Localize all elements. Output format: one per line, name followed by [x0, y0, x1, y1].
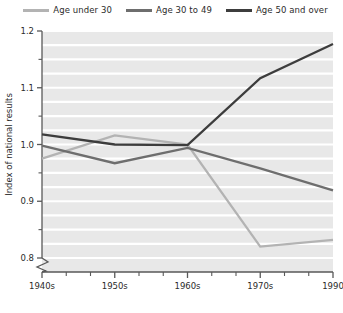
chart-legend: Age under 30 Age 30 to 49 Age 50 and ove…: [0, 0, 343, 20]
x-axis: [42, 272, 333, 278]
y-tick-label: 1.1: [20, 83, 34, 93]
legend-item-age-30-to-49: Age 30 to 49: [126, 5, 212, 15]
legend-label: Age under 30: [53, 5, 112, 15]
chart-svg: 1.21.11.00.90.8 1940s1950s1960s1970s1990…: [0, 20, 343, 313]
x-tick-label: 1950s: [102, 281, 129, 291]
legend-label: Age 50 and over: [256, 5, 328, 15]
chart-container: Age under 30 Age 30 to 49 Age 50 and ove…: [0, 0, 343, 313]
plot-background: [42, 31, 333, 272]
y-axis-title: Index of national results: [4, 93, 14, 196]
y-tick-label: 0.9: [20, 196, 34, 206]
legend-line-swatch-icon: [23, 9, 49, 12]
legend-item-age-50-and-over: Age 50 and over: [226, 5, 328, 15]
x-tick-label: 1990: [322, 281, 343, 291]
x-tick-label: 1960s: [174, 281, 201, 291]
x-tick-label: 1970s: [247, 281, 274, 291]
legend-label: Age 30 to 49: [156, 5, 212, 15]
y-tick-label: 1.2: [20, 26, 34, 36]
x-tick-label: 1940s: [29, 281, 56, 291]
y-tick-label: 1.0: [20, 140, 34, 150]
legend-line-swatch-icon: [226, 9, 252, 12]
y-tick-label: 0.8: [20, 253, 34, 263]
y-axis-title-text: Index of national results: [4, 93, 14, 196]
y-tick-labels: 1.21.11.00.90.8: [20, 26, 34, 263]
legend-line-swatch-icon: [126, 9, 152, 12]
legend-item-age-under-30: Age under 30: [23, 5, 112, 15]
x-tick-labels: 1940s1950s1960s1970s1990: [29, 281, 343, 291]
plot-area: 1.21.11.00.90.8 1940s1950s1960s1970s1990…: [0, 20, 343, 313]
